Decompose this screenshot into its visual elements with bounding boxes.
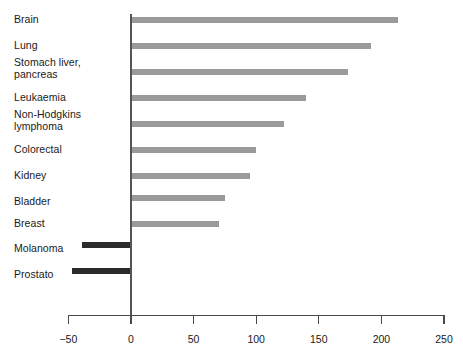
bar-colorectal — [131, 147, 256, 153]
bar-lung — [131, 43, 371, 49]
category-label-bladder: Bladder — [14, 195, 51, 207]
x-tick-50 — [193, 315, 194, 324]
bar-stomach-liver-pancreas — [131, 69, 348, 75]
x-tick-150 — [318, 315, 319, 324]
bar-brain — [131, 17, 398, 23]
category-label-stomach-liver-pancreas: Stomach liver, pancreas — [14, 56, 81, 81]
category-label-brain: Brain — [14, 13, 39, 25]
x-tick-250 — [443, 315, 444, 324]
category-label-leukaemia: Leukaemia — [14, 91, 66, 103]
x-tick-label-100: 100 — [247, 333, 265, 345]
category-label-molanoma: Molanoma — [14, 242, 63, 254]
x-tick-200 — [381, 315, 382, 324]
bar-leukaemia — [131, 95, 306, 101]
category-label-kidney: Kidney — [14, 169, 46, 181]
x-tick-label-200: 200 — [373, 333, 391, 345]
bar-chart: Brain Lung Stomach liver, pancreas Leuka… — [0, 0, 463, 361]
category-label-prostato: Prostato — [14, 268, 54, 280]
bar-non-hodgkins-lymphoma — [131, 121, 284, 127]
category-label-breast: Breast — [14, 217, 45, 229]
x-tick-label-250: 250 — [435, 333, 453, 345]
x-tick-label-150: 150 — [310, 333, 328, 345]
bar-bladder — [131, 195, 225, 201]
x-tick-label--50: −50 — [59, 333, 77, 345]
x-tick-label-0: 0 — [128, 333, 134, 345]
bar-molanoma — [82, 242, 131, 248]
x-tick--50 — [68, 315, 69, 324]
zero-axis-line — [130, 14, 132, 315]
category-label-lung: Lung — [14, 39, 38, 51]
x-tick-label-50: 50 — [188, 333, 200, 345]
x-tick-100 — [256, 315, 257, 324]
category-label-non-hodgkins-lymphoma: Non-Hodgkins lymphoma — [14, 108, 81, 133]
bar-kidney — [131, 173, 250, 179]
bar-prostato — [72, 268, 131, 274]
bar-breast — [131, 221, 219, 227]
category-label-colorectal: Colorectal — [14, 143, 62, 155]
x-tick-0 — [130, 315, 131, 324]
